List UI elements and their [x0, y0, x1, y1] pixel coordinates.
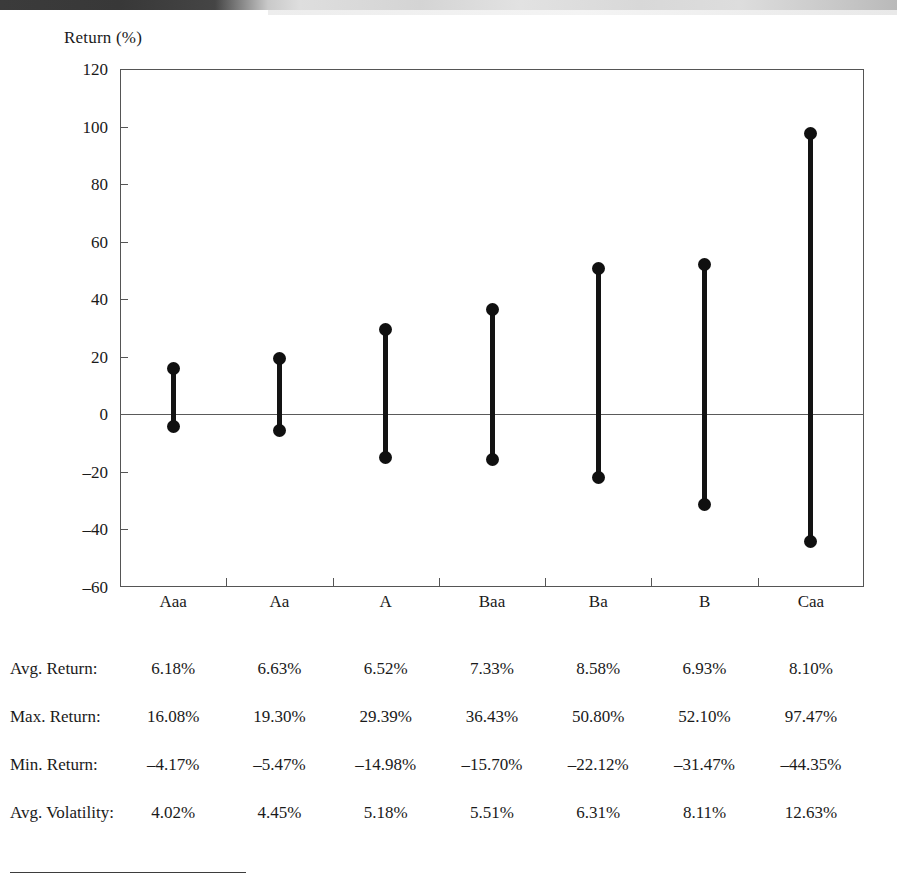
- range-stem: [171, 368, 176, 426]
- range-stem: [596, 268, 601, 478]
- stats-cell: –5.47%: [224, 755, 334, 775]
- stats-cell: 6.31%: [543, 803, 653, 823]
- stats-row-label: Max. Return:: [10, 707, 101, 727]
- y-tick-label: –20: [56, 463, 108, 480]
- stats-cell: –22.12%: [543, 755, 653, 775]
- stats-cell: 29.39%: [331, 707, 441, 727]
- y-tick-label: 80: [56, 176, 108, 193]
- y-tick-label: 20: [56, 348, 108, 365]
- footnote-rule: [10, 872, 246, 873]
- x-tick-mark: [758, 578, 759, 587]
- y-tick-mark: [120, 357, 128, 358]
- y-tick-mark: [120, 184, 128, 185]
- table-row: Max. Return:16.08%19.30%29.39%36.43%50.8…: [0, 693, 897, 741]
- x-tick-mark: [651, 578, 652, 587]
- max-dot: [592, 262, 605, 275]
- range-stem: [277, 359, 282, 430]
- y-tick-label: 120: [56, 61, 108, 78]
- x-tick-mark: [333, 578, 334, 587]
- table-row: Min. Return:–4.17%–5.47%–14.98%–15.70%–2…: [0, 741, 897, 789]
- y-tick-label: 40: [56, 291, 108, 308]
- stats-cell: 5.18%: [331, 803, 441, 823]
- y-tick-mark: [120, 127, 128, 128]
- max-dot: [698, 258, 711, 271]
- y-tick-label: –60: [56, 579, 108, 596]
- stats-row-label: Min. Return:: [10, 755, 98, 775]
- x-tick-mark: [439, 578, 440, 587]
- stats-cell: 4.45%: [224, 803, 334, 823]
- y-tick-mark: [120, 529, 128, 530]
- stats-cell: 16.08%: [118, 707, 228, 727]
- x-tick-label-aaa: Aaa: [113, 592, 233, 612]
- stats-cell: 7.33%: [437, 659, 547, 679]
- x-tick-label-a: A: [326, 592, 446, 612]
- stats-cell: 6.18%: [118, 659, 228, 679]
- stats-cell: –14.98%: [331, 755, 441, 775]
- range-stem: [490, 309, 495, 459]
- y-tick-label: 100: [56, 118, 108, 135]
- x-tick-mark: [545, 578, 546, 587]
- stats-cell: 5.51%: [437, 803, 547, 823]
- stats-cell: 4.02%: [118, 803, 228, 823]
- y-axis-title: Return (%): [64, 28, 142, 48]
- stats-cell: 12.63%: [756, 803, 866, 823]
- stats-row-label: Avg. Volatility:: [10, 803, 114, 823]
- x-tick-label-caa: Caa: [751, 592, 871, 612]
- max-dot: [486, 303, 499, 316]
- stats-cell: 8.11%: [650, 803, 760, 823]
- stats-cell: –44.35%: [756, 755, 866, 775]
- x-tick-label-ba: Ba: [538, 592, 658, 612]
- stats-cell: 8.58%: [543, 659, 653, 679]
- y-tick-mark: [120, 242, 128, 243]
- range-stem: [702, 264, 707, 504]
- table-row: Avg. Volatility:4.02%4.45%5.18%5.51%6.31…: [0, 789, 897, 837]
- stats-cell: 8.10%: [756, 659, 866, 679]
- stats-cell: 6.93%: [650, 659, 760, 679]
- min-dot: [167, 420, 180, 433]
- range-stem: [808, 134, 813, 542]
- stats-cell: 36.43%: [437, 707, 547, 727]
- min-dot: [273, 424, 286, 437]
- stats-cell: 50.80%: [543, 707, 653, 727]
- table-row: Avg. Return:6.18%6.63%6.52%7.33%8.58%6.9…: [0, 645, 897, 693]
- stats-row-label: Avg. Return:: [10, 659, 98, 679]
- stats-cell: –4.17%: [118, 755, 228, 775]
- y-tick-label: 0: [56, 406, 108, 423]
- y-tick-mark: [120, 472, 128, 473]
- return-range-chart: Return (%) 120100806040200–20–40–60 AaaA…: [0, 0, 897, 885]
- x-tick-label-aa: Aa: [219, 592, 339, 612]
- y-tick-mark: [120, 299, 128, 300]
- max-dot: [167, 362, 180, 375]
- stats-table: Avg. Return:6.18%6.63%6.52%7.33%8.58%6.9…: [0, 645, 897, 837]
- y-tick-label: 60: [56, 233, 108, 250]
- stats-cell: 97.47%: [756, 707, 866, 727]
- min-dot: [486, 453, 499, 466]
- stats-cell: –15.70%: [437, 755, 547, 775]
- stats-cell: 6.63%: [224, 659, 334, 679]
- x-tick-mark: [226, 578, 227, 587]
- x-tick-label-baa: Baa: [432, 592, 552, 612]
- stats-cell: 52.10%: [650, 707, 760, 727]
- stats-cell: 6.52%: [331, 659, 441, 679]
- y-tick-label: –40: [56, 521, 108, 538]
- range-stem: [383, 330, 388, 458]
- stats-cell: 19.30%: [224, 707, 334, 727]
- stats-cell: –31.47%: [650, 755, 760, 775]
- x-tick-label-b: B: [645, 592, 765, 612]
